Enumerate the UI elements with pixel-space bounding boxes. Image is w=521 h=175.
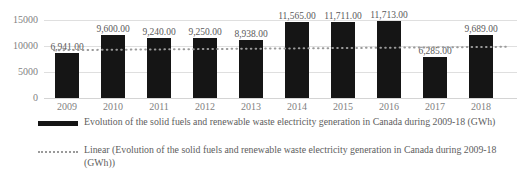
bar-chart: 15000 10000 5000 0 6,941.00 9,600.00 bbox=[0, 0, 521, 175]
bar-label-2018: 9,689.00 bbox=[449, 24, 513, 34]
bar-2017[interactable] bbox=[423, 57, 447, 98]
legend-bar-swatch-icon bbox=[36, 118, 80, 129]
legend-label-bar-series: Evolution of the solid fuels and renewab… bbox=[80, 116, 514, 129]
bar-2016[interactable] bbox=[377, 21, 401, 98]
bar-group-2009: 6,941.00 bbox=[44, 0, 90, 98]
x-axis-tick-2017: 2017 bbox=[412, 101, 458, 112]
legend-item-trendline[interactable]: Linear (Evolution of the solid fuels and… bbox=[36, 144, 514, 169]
y-axis-tick-5000: 5000 bbox=[18, 67, 38, 77]
y-axis-tick-0: 0 bbox=[33, 93, 38, 103]
bar-2010[interactable] bbox=[101, 35, 125, 98]
plot-area: 15000 10000 5000 0 6,941.00 9,600.00 bbox=[0, 0, 521, 112]
x-axis-tick-2016: 2016 bbox=[366, 101, 412, 112]
x-axis-tick-2018: 2018 bbox=[458, 101, 504, 112]
y-axis-tick-15000: 15000 bbox=[13, 15, 38, 25]
y-axis: 15000 10000 5000 0 bbox=[0, 0, 42, 112]
x-axis-tick-2012: 2012 bbox=[182, 101, 228, 112]
bar-group-2018: 9,689.00 bbox=[458, 0, 504, 98]
bar-series: 6,941.00 9,600.00 9,240.00 9,250.00 8,93… bbox=[44, 0, 517, 112]
x-axis: 2009 2010 2011 2012 2013 2014 2015 2016 … bbox=[44, 99, 517, 113]
bar-2015[interactable] bbox=[331, 22, 355, 99]
x-axis-tick-2013: 2013 bbox=[228, 101, 274, 112]
bar-group-2011: 9,240.00 bbox=[136, 0, 182, 98]
bar-2018[interactable] bbox=[469, 35, 493, 98]
bar-group-2017: 6,285.00 bbox=[412, 0, 458, 98]
bar-2013[interactable] bbox=[239, 40, 263, 98]
bar-group-2010: 9,600.00 bbox=[90, 0, 136, 98]
bar-2011[interactable] bbox=[147, 38, 171, 98]
x-axis-tick-2015: 2015 bbox=[320, 101, 366, 112]
legend-dotted-line-swatch-icon bbox=[36, 146, 80, 157]
x-axis-tick-2014: 2014 bbox=[274, 101, 320, 112]
chart-legend: Evolution of the solid fuels and renewab… bbox=[0, 116, 521, 175]
legend-item-bar-series[interactable]: Evolution of the solid fuels and renewab… bbox=[36, 116, 514, 129]
bar-2009[interactable] bbox=[55, 53, 79, 98]
bar-2014[interactable] bbox=[285, 22, 309, 98]
x-axis-tick-2011: 2011 bbox=[136, 101, 182, 112]
x-axis-tick-2010: 2010 bbox=[90, 101, 136, 112]
x-axis-tick-2009: 2009 bbox=[44, 101, 90, 112]
legend-label-trendline: Linear (Evolution of the solid fuels and… bbox=[80, 144, 514, 169]
bar-group-2012: 9,250.00 bbox=[182, 0, 228, 98]
bar-2012[interactable] bbox=[193, 38, 217, 98]
